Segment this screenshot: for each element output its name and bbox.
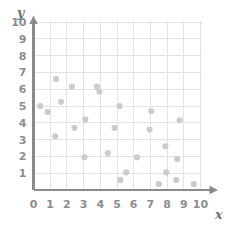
y-axis-label: y xyxy=(16,5,25,20)
data-point xyxy=(117,177,123,183)
data-point xyxy=(173,177,179,183)
x-tick-label: 4 xyxy=(96,198,104,211)
data-point xyxy=(81,154,87,160)
data-point xyxy=(123,169,129,175)
data-point xyxy=(111,125,117,131)
data-point xyxy=(148,108,154,114)
data-point xyxy=(134,154,140,160)
data-point xyxy=(116,103,122,109)
axes xyxy=(29,16,218,195)
data-point xyxy=(163,169,169,175)
y-axis-arrowhead xyxy=(29,16,37,25)
data-point xyxy=(37,103,43,109)
x-tick-label: 8 xyxy=(163,198,171,211)
y-tick-label: 8 xyxy=(19,50,27,63)
x-tick-label: 2 xyxy=(63,198,71,211)
y-tick-label: 7 xyxy=(19,66,27,79)
data-point xyxy=(191,181,197,187)
y-tick-label: 3 xyxy=(19,134,27,147)
y-tick-label: 2 xyxy=(19,150,27,163)
data-point xyxy=(45,109,51,115)
x-tick-label: 5 xyxy=(113,198,121,211)
data-point xyxy=(96,89,102,95)
data-point xyxy=(53,76,59,82)
y-tick-label: 6 xyxy=(19,83,27,96)
data-point xyxy=(177,117,183,123)
data-point xyxy=(52,133,58,139)
x-tick-label: 10 xyxy=(193,198,209,211)
x-tick-label: 7 xyxy=(147,198,155,211)
data-point xyxy=(82,116,88,122)
data-point xyxy=(162,143,168,149)
x-tick-label: 6 xyxy=(130,198,138,211)
scatter-plot-figure: 012345678910 12345678910 y x xyxy=(0,0,229,233)
scatter-plot-canvas: 012345678910 12345678910 y x xyxy=(0,0,229,233)
data-point xyxy=(69,84,75,90)
y-tick-label: 1 xyxy=(19,167,27,180)
data-point xyxy=(174,156,180,162)
data-point xyxy=(146,126,152,132)
x-tick-label: 0 xyxy=(30,198,38,211)
x-tick-label: 1 xyxy=(46,198,54,211)
x-axis-arrowhead xyxy=(210,186,219,194)
x-axis-label: x xyxy=(214,207,223,222)
y-tick-label: 5 xyxy=(19,100,27,113)
y-axis-tick-labels: 12345678910 xyxy=(11,16,27,180)
y-tick-label: 4 xyxy=(19,117,27,130)
x-tick-label: 3 xyxy=(80,198,88,211)
data-point xyxy=(156,181,162,187)
x-axis-tick-labels: 012345678910 xyxy=(30,198,209,211)
data-point xyxy=(58,99,64,105)
data-point xyxy=(105,150,111,156)
x-tick-label: 9 xyxy=(180,198,188,211)
y-tick-label: 9 xyxy=(19,33,27,46)
data-point xyxy=(71,125,77,131)
